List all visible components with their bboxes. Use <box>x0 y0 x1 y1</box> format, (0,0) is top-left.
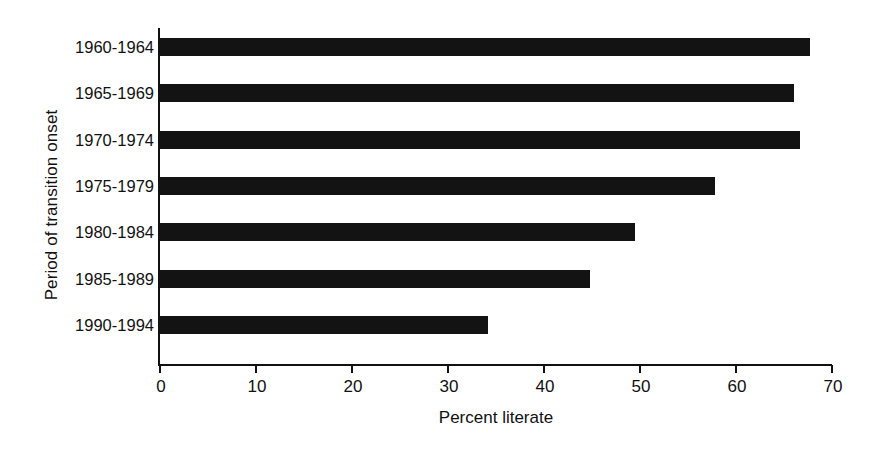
bar-chart-figure: Period of transition onset 1960-19641965… <box>0 0 872 449</box>
bar <box>160 84 794 102</box>
x-axis-tick-label: 70 <box>803 377 863 397</box>
y-axis-tick-label: 1970-1974 <box>46 131 154 149</box>
y-axis-line <box>158 28 160 365</box>
y-axis-tick-label: 1975-1979 <box>46 177 154 195</box>
y-axis-tick-label: 1960-1964 <box>46 38 154 56</box>
y-axis-category-labels: 1960-19641965-19691970-19741975-19791980… <box>46 28 154 350</box>
x-axis-tick <box>831 365 833 373</box>
y-axis-tick-label: 1980-1984 <box>46 223 154 241</box>
x-axis-tick-label: 30 <box>419 377 479 397</box>
x-axis-tick-label: 0 <box>131 377 191 397</box>
x-axis-tick-label: 50 <box>611 377 671 397</box>
x-axis-tick <box>639 365 641 373</box>
x-axis-tick <box>735 365 737 373</box>
x-axis-tick-label: 40 <box>515 377 575 397</box>
x-axis-title: Percent literate <box>160 408 832 428</box>
bar <box>160 223 635 241</box>
x-axis-tick-label: 10 <box>227 377 287 397</box>
y-axis-tick-label: 1965-1969 <box>46 84 154 102</box>
bar <box>160 131 800 149</box>
bar <box>160 316 488 334</box>
x-axis-tick-label: 60 <box>707 377 767 397</box>
x-axis-tick <box>543 365 545 373</box>
x-axis-tick <box>159 365 161 373</box>
bar <box>160 177 715 195</box>
y-axis-tick-label: 1990-1994 <box>46 316 154 334</box>
x-axis-tick <box>351 365 353 373</box>
plot-area: 010203040506070 <box>160 28 832 365</box>
y-axis-tick-label: 1985-1989 <box>46 270 154 288</box>
x-axis-tick-label: 20 <box>323 377 383 397</box>
x-axis-tick <box>255 365 257 373</box>
bar <box>160 270 590 288</box>
bar <box>160 38 810 56</box>
x-axis-tick <box>447 365 449 373</box>
x-axis-line <box>158 364 832 366</box>
